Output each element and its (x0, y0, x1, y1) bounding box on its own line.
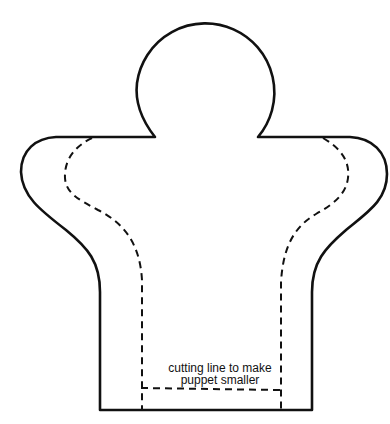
annotation-label-line2: puppet smaller (158, 374, 282, 386)
puppet-body-outline (21, 23, 387, 410)
